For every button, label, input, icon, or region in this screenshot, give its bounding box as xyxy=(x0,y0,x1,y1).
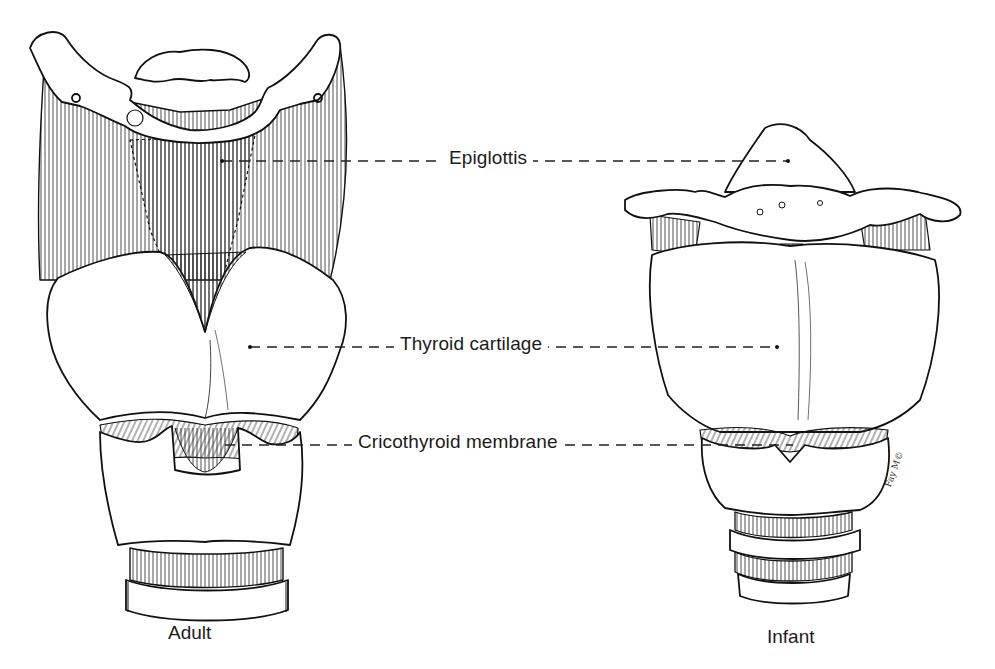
infant-thyroid-cartilage xyxy=(650,242,939,432)
adult-epiglottis-tip xyxy=(135,50,249,82)
label-cricothyroid-membrane: Cricothyroid membrane xyxy=(352,431,564,453)
label-epiglottis: Epiglottis xyxy=(443,147,533,169)
adult-larynx-drawing xyxy=(30,32,347,620)
caption-infant: Infant xyxy=(767,626,815,648)
larynx-comparison-figure: Epiglottis Thyroid cartilage Cricothyroi… xyxy=(0,0,995,669)
adult-trachea xyxy=(130,548,283,588)
label-thyroid-cartilage: Thyroid cartilage xyxy=(394,333,548,355)
infant-epiglottis xyxy=(725,124,855,192)
caption-adult: Adult xyxy=(168,622,211,644)
infant-larynx-drawing xyxy=(625,124,961,603)
